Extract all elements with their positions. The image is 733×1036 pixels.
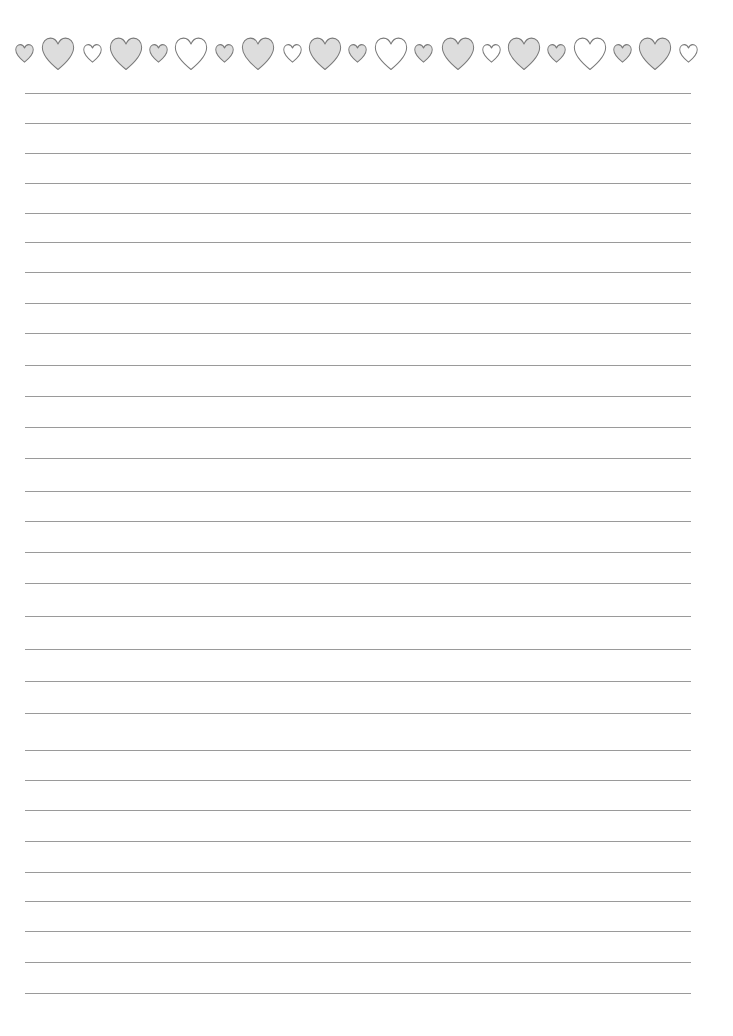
ruled-line (25, 841, 691, 842)
ruled-line (25, 681, 691, 682)
ruled-line (25, 583, 691, 584)
heart-icon (215, 44, 234, 63)
ruled-line (25, 183, 691, 184)
ruled-line (25, 750, 691, 751)
heart-icon (374, 37, 408, 71)
ruled-line (25, 521, 691, 522)
ruled-line (25, 616, 691, 617)
ruled-line (25, 713, 691, 714)
ruled-line (25, 396, 691, 397)
heart-icon (283, 44, 302, 63)
heart-icon (149, 44, 168, 63)
heart-icon (638, 37, 672, 71)
ruled-line (25, 427, 691, 428)
heart-icon (679, 44, 698, 63)
heart-icon (573, 37, 607, 71)
heart-icon (308, 37, 342, 71)
ruled-line (25, 962, 691, 963)
heart-icon (613, 44, 632, 63)
ruled-line (25, 780, 691, 781)
heart-icon (348, 44, 367, 63)
heart-icon (507, 37, 541, 71)
heart-icon (174, 37, 208, 71)
ruled-line (25, 810, 691, 811)
heart-icon (482, 44, 501, 63)
ruled-line (25, 93, 691, 94)
ruled-line (25, 242, 691, 243)
ruled-line (25, 153, 691, 154)
ruled-line (25, 213, 691, 214)
heart-icon (15, 44, 34, 63)
ruled-line (25, 872, 691, 873)
ruled-line (25, 993, 691, 994)
heart-icon (83, 44, 102, 63)
heart-icon (547, 44, 566, 63)
heart-icon (241, 37, 275, 71)
ruled-line (25, 333, 691, 334)
ruled-line (25, 649, 691, 650)
ruled-line (25, 272, 691, 273)
heart-icon (414, 44, 433, 63)
heart-icon (109, 37, 143, 71)
ruled-line (25, 552, 691, 553)
ruled-line (25, 901, 691, 902)
ruled-line (25, 458, 691, 459)
heart-border (0, 0, 733, 85)
ruled-line (25, 123, 691, 124)
heart-icon (441, 37, 475, 71)
ruled-line (25, 931, 691, 932)
ruled-line (25, 303, 691, 304)
heart-icon (41, 37, 75, 71)
ruled-line (25, 491, 691, 492)
ruled-line (25, 365, 691, 366)
